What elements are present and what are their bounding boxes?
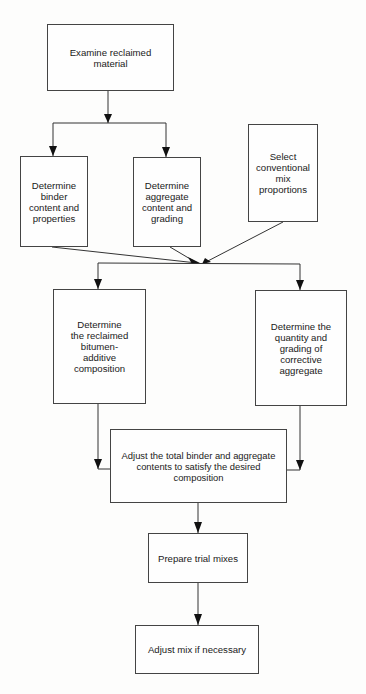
node-adjust-total-binder: Adjust the total binder and aggregate co… (110, 429, 287, 503)
node-select-conventional-mix: Select conventional mix proportions (248, 124, 318, 222)
arrowhead-icon (194, 614, 202, 625)
edge-binder-to-merge (52, 247, 197, 263)
arrowhead-icon (104, 114, 112, 123)
arrowhead-icon (296, 460, 304, 470)
node-determine-bitumen-additive: Determine the reclaimed bitumen- additiv… (53, 289, 146, 404)
flowchart: Examine reclaimed material Determine bin… (0, 0, 366, 694)
arrowhead-icon (296, 280, 304, 290)
node-prepare-trial-mixes: Prepare trial mixes (148, 533, 248, 583)
node-determine-corrective-aggregate: Determine the quantity and grading of co… (255, 290, 347, 406)
edge-aggregate-to-merge (170, 247, 197, 263)
node-adjust-mix: Adjust mix if necessary (135, 625, 259, 674)
edge-conventional-to-merge (204, 222, 283, 263)
arrowhead-icon (94, 459, 102, 469)
arrowhead-icon (94, 279, 102, 289)
node-determine-aggregate: Determine aggregate content and grading (133, 157, 201, 247)
arrowhead-icon (194, 522, 202, 533)
arrowhead-icon (162, 147, 170, 157)
arrowhead-icon (188, 257, 200, 264)
edge-merge-horizontal (98, 263, 300, 264)
arrowhead-icon (202, 258, 211, 264)
node-examine-reclaimed-material: Examine reclaimed material (47, 24, 174, 91)
node-determine-binder: Determine binder content and properties (20, 156, 88, 247)
arrowhead-icon (49, 146, 57, 156)
